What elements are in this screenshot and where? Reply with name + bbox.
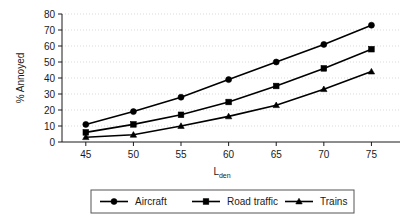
data-point xyxy=(226,77,232,83)
x-axis-title-sub: den xyxy=(219,172,231,179)
x-tick-label: 65 xyxy=(271,149,283,160)
legend-marker-square xyxy=(203,199,209,205)
chart-legend: AircraftRoad trafficTrains xyxy=(91,190,354,213)
y-tick-label: 50 xyxy=(44,57,56,68)
data-point xyxy=(273,83,279,89)
y-tick-label: 30 xyxy=(44,89,56,100)
data-point xyxy=(178,94,184,100)
data-point xyxy=(131,122,137,128)
data-point xyxy=(368,68,374,74)
legend-border xyxy=(91,190,354,213)
x-axis-ticks: 45505560657075 xyxy=(80,142,377,160)
annoyance-vs-lden-chart: 01020304050607080 45505560657075 % Annoy… xyxy=(0,0,419,221)
data-point xyxy=(369,46,375,52)
data-point xyxy=(83,121,89,127)
data-series-group xyxy=(83,22,375,139)
data-point xyxy=(321,41,327,47)
series-aircraft xyxy=(83,22,375,127)
x-axis-title: Lden xyxy=(213,166,230,179)
x-tick-label: 75 xyxy=(366,149,378,160)
data-point xyxy=(273,59,279,65)
y-axis-ticks: 01020304050607080 xyxy=(44,9,62,148)
legend-label: Aircraft xyxy=(135,196,167,207)
legend-label: Road traffic xyxy=(227,196,278,207)
gridlines xyxy=(62,14,400,126)
legend-label: Trains xyxy=(320,196,347,207)
y-axis-title: % Annoyed xyxy=(15,53,26,104)
series-road-traffic xyxy=(83,46,374,135)
y-tick-label: 40 xyxy=(44,73,56,84)
y-tick-label: 80 xyxy=(44,9,56,20)
y-tick-label: 60 xyxy=(44,41,56,52)
x-tick-label: 45 xyxy=(80,149,92,160)
data-point xyxy=(368,22,374,28)
y-tick-label: 0 xyxy=(49,137,55,148)
series-line xyxy=(86,25,372,124)
x-tick-label: 55 xyxy=(175,149,187,160)
data-point xyxy=(321,66,327,72)
y-tick-label: 20 xyxy=(44,105,56,116)
x-tick-label: 60 xyxy=(223,149,235,160)
y-tick-label: 70 xyxy=(44,25,56,36)
y-tick-label: 10 xyxy=(44,121,56,132)
data-point xyxy=(178,112,184,118)
data-point xyxy=(130,109,136,115)
legend-marker-circle xyxy=(111,199,117,205)
x-tick-label: 50 xyxy=(128,149,140,160)
x-tick-label: 70 xyxy=(318,149,330,160)
data-point xyxy=(226,99,232,105)
